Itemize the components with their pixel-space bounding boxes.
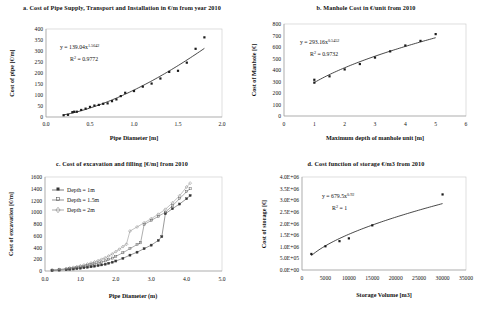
chart-a-ytick: 200 xyxy=(35,70,44,76)
chart-b-xtick: 3 xyxy=(374,121,377,127)
legend-label: Depth = 1.5m xyxy=(67,197,100,203)
chart-a-ytick: 300 xyxy=(35,48,44,54)
data-point xyxy=(161,236,163,238)
data-point xyxy=(168,71,170,73)
chart-b-ytick: 800 xyxy=(273,21,282,27)
chart-b-xtick: 6 xyxy=(465,121,468,127)
chart-a-y-axis-label: Cost of pipe [€/m] xyxy=(8,49,15,96)
chart-c-x-ticks: 0.0 1.0 2.0 3.0 4.0 5.0 xyxy=(42,276,226,282)
data-point xyxy=(101,264,103,266)
chart-c-ytick: 1600 xyxy=(31,174,42,180)
chart-c-ytick: 200 xyxy=(34,256,43,262)
data-point xyxy=(142,86,144,88)
data-point xyxy=(136,251,138,253)
chart-b-ytick: 500 xyxy=(273,56,282,62)
chart-a-y-ticks: 0 50 100 150 200 250 300 350 400 xyxy=(35,26,44,120)
chart-d-r-squared: R2 = 1 xyxy=(332,204,347,211)
chart-d-data-points xyxy=(310,193,443,255)
chart-d-equation: y = 679.5x0.92 xyxy=(322,192,354,199)
chart-panel-a: a. Cost of Pipe Supply, Transport and In… xyxy=(0,0,244,156)
chart-a-ytick: 250 xyxy=(35,59,44,65)
chart-a-ytick: 150 xyxy=(35,81,44,87)
chart-b-y-axis-label: Cost of Manhole [€] xyxy=(250,44,257,96)
data-point xyxy=(313,82,315,84)
data-point xyxy=(374,56,376,58)
data-point xyxy=(195,48,197,50)
chart-a-r-squared: R2 = 0.9772 xyxy=(70,55,98,62)
chart-b-xtick: 0 xyxy=(283,121,286,127)
data-point xyxy=(120,95,122,97)
data-point xyxy=(115,260,117,262)
chart-d-ytick: 3.5E+06 xyxy=(280,186,299,192)
data-point xyxy=(90,266,92,268)
chart-b-xtick: 2 xyxy=(343,121,346,127)
chart-b-ytick: 100 xyxy=(273,102,282,108)
data-point xyxy=(102,103,104,105)
chart-a-ytick: 400 xyxy=(35,26,44,32)
data-point xyxy=(89,106,91,108)
legend-item-depth-1m[interactable]: Depth = 1m xyxy=(52,187,95,193)
data-point xyxy=(177,70,179,72)
chart-b-ytick: 200 xyxy=(273,90,282,96)
chart-a-xtick: 1.5 xyxy=(175,121,182,127)
chart-c-xtick: 5.0 xyxy=(219,276,226,282)
data-point xyxy=(348,237,350,239)
data-point xyxy=(98,104,100,106)
trendline-path xyxy=(314,38,435,83)
data-point xyxy=(359,63,361,65)
chart-d-xtick: 15000 xyxy=(365,275,379,281)
data-point xyxy=(171,208,173,210)
chart-a-ytick: 100 xyxy=(35,92,44,98)
chart-a-xtick: 1.0 xyxy=(131,121,138,127)
data-point xyxy=(186,62,188,64)
chart-b-xtick: 5 xyxy=(434,121,437,127)
chart-b-xtick: 4 xyxy=(404,121,407,127)
chart-b-equation: y = 293.16x0.5452 xyxy=(300,38,339,45)
chart-d-plot: 0.0E+00 5.0E+05 1.0E+06 1.5E+06 2.0E+06 … xyxy=(244,156,488,312)
chart-a-ytick: 350 xyxy=(35,37,44,43)
chart-c-ytick: 600 xyxy=(34,233,43,239)
chart-d-ytick: 2.0E+06 xyxy=(280,221,299,227)
data-point xyxy=(85,108,87,110)
data-point xyxy=(133,90,135,92)
data-point xyxy=(151,82,153,84)
chart-a-xtick: 0.0 xyxy=(43,121,50,127)
chart-c-xtick: 1.0 xyxy=(77,276,84,282)
chart-d-xtick: 10000 xyxy=(342,275,356,281)
data-point xyxy=(404,44,406,46)
data-point xyxy=(389,50,391,52)
chart-a-ytick: 50 xyxy=(37,103,43,109)
data-point xyxy=(93,104,95,106)
chart-b-plot: 0 100 200 300 400 500 600 700 800 0 1 2 … xyxy=(244,0,488,156)
chart-c-ytick: 1400 xyxy=(31,186,42,192)
data-point xyxy=(186,198,188,200)
series-1 xyxy=(51,194,191,271)
chart-c-xtick: 0.0 xyxy=(42,276,49,282)
chart-d-ytick: 5.0E+05 xyxy=(280,255,299,261)
chart-b-x-axis-label: Maximum depth of manhole unit [m] xyxy=(326,134,424,141)
data-point xyxy=(111,261,113,263)
data-point xyxy=(76,111,78,113)
chart-b-xtick: 1 xyxy=(313,121,316,127)
legend-item-depth-15m[interactable]: Depth = 1.5m xyxy=(52,197,100,203)
legend-item-depth-2m[interactable]: Depth = 2m xyxy=(52,207,95,213)
data-point xyxy=(159,77,161,79)
chart-c-ytick: 0 xyxy=(39,268,42,274)
chart-panel-c: c. Cost of excavation and filling [€/m] … xyxy=(0,156,244,312)
chart-a-x-ticks: 0.0 0.5 1.0 1.5 2.0 xyxy=(43,121,226,127)
chart-d-plot-frame xyxy=(302,177,466,270)
chart-d-trendline xyxy=(311,204,442,256)
chart-d-xtick: 25000 xyxy=(412,275,426,281)
chart-c-xtick: 3.0 xyxy=(148,276,155,282)
chart-a-xtick: 2.0 xyxy=(219,121,226,127)
chart-d-xtick: 30000 xyxy=(436,275,450,281)
chart-d-ytick: 3.0E+06 xyxy=(280,197,299,203)
data-point xyxy=(441,193,443,195)
chart-b-x-ticks: 0 1 2 3 4 5 6 xyxy=(283,121,468,127)
chart-b-ytick: 600 xyxy=(273,44,282,50)
data-point xyxy=(104,263,106,265)
chart-c-xtick: 4.0 xyxy=(183,276,190,282)
chart-a-plot: 0 50 100 150 200 250 300 350 400 0.0 0.5… xyxy=(0,0,244,156)
data-point xyxy=(157,239,159,241)
chart-d-ytick: 4.0E+06 xyxy=(280,174,299,180)
